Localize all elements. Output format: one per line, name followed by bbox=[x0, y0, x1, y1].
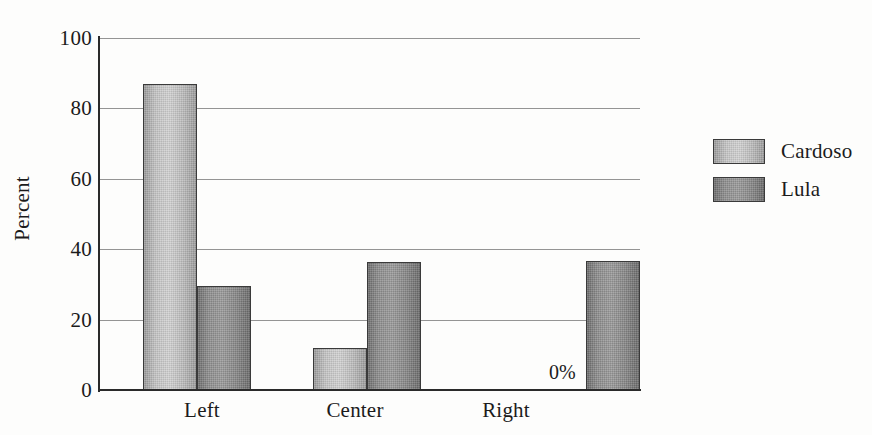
y-axis-ticks: 100 80 60 40 20 0 bbox=[34, 0, 92, 435]
bar-chart-figure: 0% 100 80 60 40 20 0 Percent Left Center… bbox=[0, 0, 872, 435]
bar-cardoso-center bbox=[313, 348, 367, 390]
x-tick-left: Left bbox=[122, 398, 282, 423]
bar-lula-right bbox=[586, 261, 640, 390]
y-tick-100: 100 bbox=[46, 28, 92, 49]
legend-label-lula: Lula bbox=[781, 174, 820, 204]
legend-swatch-cardoso bbox=[713, 139, 765, 164]
legend-label-cardoso: Cardoso bbox=[781, 136, 852, 166]
bar-lula-left bbox=[197, 286, 251, 390]
y-tick-60: 60 bbox=[46, 169, 92, 190]
y-tick-40: 40 bbox=[46, 239, 92, 260]
x-tick-center: Center bbox=[275, 398, 435, 423]
bar-lula-center bbox=[367, 262, 421, 390]
bar-cardoso-left bbox=[143, 84, 197, 390]
y-tick-0: 0 bbox=[46, 380, 92, 401]
gridline-100 bbox=[99, 38, 640, 39]
y-axis-line bbox=[98, 36, 100, 392]
y-tick-20: 20 bbox=[46, 310, 92, 331]
y-tick-80: 80 bbox=[46, 98, 92, 119]
zero-percent-annotation: 0% bbox=[549, 361, 576, 384]
plot-area: 0% bbox=[99, 38, 640, 390]
legend-swatch-lula bbox=[713, 177, 765, 202]
x-axis-line bbox=[98, 389, 641, 391]
x-tick-right: Right bbox=[426, 398, 586, 423]
y-axis-title: Percent bbox=[10, 139, 35, 279]
